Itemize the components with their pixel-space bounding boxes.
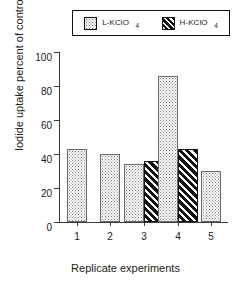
x-axis-title: Replicate experiments bbox=[0, 262, 251, 274]
bar-chart: L-KClO 4 H-KClO 4 Iodide uptake percent … bbox=[0, 0, 251, 288]
bar-L-KClO4-2 bbox=[100, 154, 120, 222]
bar-L-KClO4-3 bbox=[124, 164, 144, 222]
x-tick-label: 5 bbox=[199, 231, 223, 242]
x-tick-label: 4 bbox=[166, 231, 190, 242]
bar-L-KClO4-4 bbox=[158, 76, 178, 222]
bar-L-KClO4-5 bbox=[201, 171, 221, 222]
bar-H-KClO4-4 bbox=[178, 149, 198, 222]
bar-L-KClO4-1 bbox=[67, 149, 87, 222]
x-tick-label: 1 bbox=[65, 231, 89, 242]
x-tick-label: 2 bbox=[98, 231, 122, 242]
bars-layer bbox=[0, 0, 251, 223]
x-tick-label: 3 bbox=[132, 231, 156, 242]
